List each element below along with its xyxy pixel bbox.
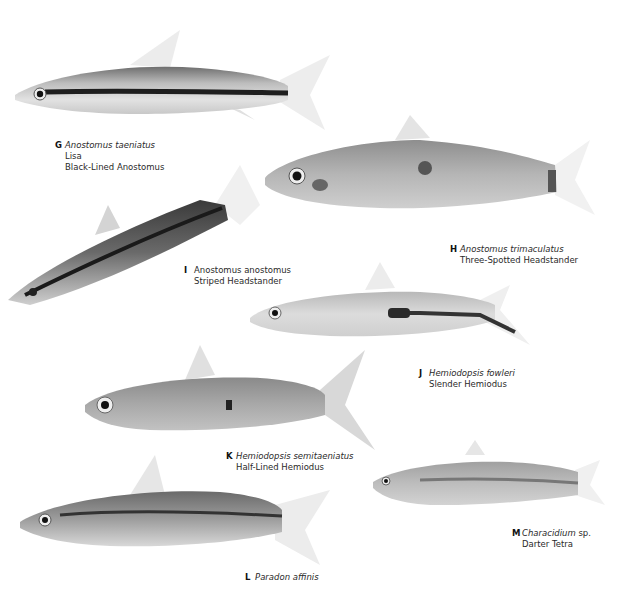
caption-letter: K	[226, 451, 233, 462]
fish-k-hemiodopsis-semitaeniatus	[85, 345, 375, 450]
caption-k: K Hemiodopsis semitaeniatus Half-Lined H…	[236, 451, 354, 473]
fish-j-hemiodopsis-fowleri	[250, 262, 530, 345]
fish-g-anostomus-taeniatus	[15, 30, 330, 130]
caption-letter: J	[419, 368, 422, 379]
common-name: Darter Tetra	[522, 539, 591, 550]
common-name: Black-Lined Anostomus	[65, 162, 164, 173]
common-name: Slender Hemiodus	[429, 379, 515, 390]
common-name: Lisa	[65, 151, 164, 162]
species-abbrev: sp.	[576, 528, 591, 538]
fish-h-anostomus-trimaculatus	[265, 115, 595, 215]
scientific-name: Anostomus trimaculatus	[460, 244, 578, 255]
fish-m-characidium	[373, 440, 605, 505]
caption-j: J Hemiodopsis fowleri Slender Hemiodus	[429, 368, 515, 390]
caption-h: H Anostomus trimaculatus Three-Spotted H…	[460, 244, 578, 266]
scientific-name: Hemiodopsis semitaeniatus	[236, 451, 354, 462]
caption-letter: H	[450, 244, 457, 255]
caption-letter: M	[512, 528, 520, 539]
caption-letter: G	[55, 140, 62, 151]
caption-i: I Anostomus anostomus Striped Headstande…	[194, 265, 291, 287]
common-name: Three-Spotted Headstander	[460, 255, 578, 266]
scientific-name: Anostomus taeniatus	[65, 140, 164, 151]
caption-m: M Characidium sp. Darter Tetra	[522, 528, 591, 550]
scientific-name: Hemiodopsis fowleri	[429, 368, 515, 379]
scientific-name: Anostomus anostomus	[194, 265, 291, 276]
caption-g: G Anostomus taeniatus Lisa Black-Lined A…	[65, 140, 164, 173]
common-name: Striped Headstander	[194, 276, 291, 287]
genus-name: Characidium	[522, 528, 576, 538]
scientific-name: Characidium sp.	[522, 528, 591, 539]
scientific-name: Paradon affinis	[255, 572, 319, 583]
caption-letter: L	[245, 572, 250, 583]
caption-letter: I	[184, 265, 187, 276]
caption-l: L Paradon affinis	[255, 572, 319, 583]
common-name: Half-Lined Hemiodus	[236, 462, 354, 473]
